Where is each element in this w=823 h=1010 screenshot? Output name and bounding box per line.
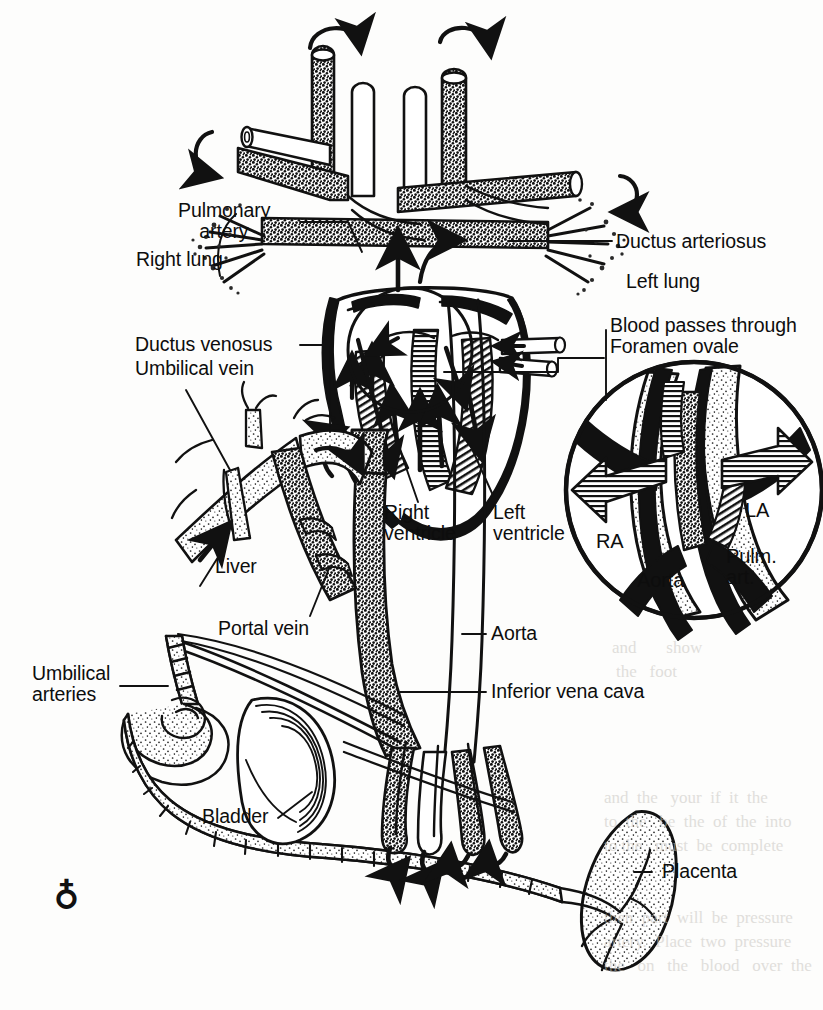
label-left-ventricle: Left ventricle — [493, 502, 565, 544]
bleedthrough-text-5: to the must be complete — [604, 834, 783, 858]
label-umbilical-arteries: Umbilical arteries — [32, 663, 110, 705]
bleedthrough-text-1: and show — [612, 636, 702, 660]
bleedthrough-text-8: the on the blood over the — [604, 954, 812, 978]
inset-label-la: LA — [745, 500, 769, 521]
label-ductus-arteriosus: Ductus arteriosus — [616, 231, 766, 252]
label-ductus-venosus: Ductus venosus — [135, 334, 272, 355]
bleedthrough-text-6: then part will be pressure — [604, 906, 793, 930]
label-left-lung: Left lung — [626, 271, 700, 292]
label-pulmonary-artery: Pulmonary artery — [178, 200, 270, 242]
label-right-ventricle: Right ventricle — [384, 502, 456, 544]
label-inferior-vena-cava: Inferior vena cava — [491, 681, 644, 702]
label-aorta: Aorta — [491, 623, 537, 644]
label-umbilical-vein: Umbilical vein — [135, 358, 254, 379]
label-portal-vein: Portal vein — [218, 618, 309, 639]
bleedthrough-text-4: to the be the of the into — [604, 810, 791, 834]
bleedthrough-text-3: and the your if it the — [604, 786, 768, 810]
inset-label-pulmonary-artery: Pulm. art. — [726, 546, 777, 588]
label-right-lung: Right lung — [136, 249, 223, 270]
bleedthrough-text-2: the foot — [616, 660, 677, 684]
fetal-circulation-figure: Pulmonary artery Right lung Ductus arter… — [0, 0, 823, 1010]
label-bladder: Bladder — [202, 806, 269, 827]
inset-label-aorta: Aorta — [637, 570, 684, 591]
label-foramen-ovale: Blood passes through Foramen ovale — [610, 315, 797, 357]
inset-label-ra: RA — [596, 531, 624, 552]
label-placenta: Placenta — [662, 861, 737, 882]
label-liver: Liver — [215, 556, 257, 577]
bleedthrough-text-7: artery. Place two pressure — [604, 930, 791, 954]
artist-signature: ♁ — [54, 876, 79, 916]
